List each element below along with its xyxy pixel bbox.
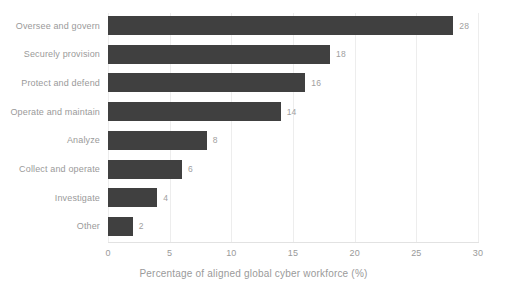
- bar: [108, 217, 133, 236]
- x-tick-label: 30: [473, 248, 483, 258]
- category-label-row: Operate and maintain: [0, 102, 100, 121]
- bar-row: 14: [108, 102, 478, 121]
- category-label: Securely provision: [24, 49, 100, 59]
- category-label: Analyze: [67, 135, 100, 145]
- category-label: Other: [77, 221, 100, 231]
- category-label-row: Oversee and govern: [0, 16, 100, 35]
- category-label: Operate and maintain: [10, 107, 100, 117]
- bar-value-label: 6: [188, 164, 193, 174]
- category-label: Protect and defend: [21, 78, 100, 88]
- x-tick-label: 10: [226, 248, 236, 258]
- bar-row: 4: [108, 188, 478, 207]
- x-tick-label: 15: [288, 248, 298, 258]
- gridline: [478, 13, 479, 242]
- bar: [108, 188, 157, 207]
- bar-value-label: 14: [287, 107, 297, 117]
- x-tick-label: 20: [350, 248, 360, 258]
- category-label-row: Protect and defend: [0, 73, 100, 92]
- bar-value-label: 8: [213, 135, 218, 145]
- bar: [108, 45, 330, 64]
- category-label: Collect and operate: [19, 164, 100, 174]
- bar-value-label: 16: [311, 78, 321, 88]
- category-label: Investigate: [55, 193, 100, 203]
- bar: [108, 160, 182, 179]
- bar-value-label: 28: [459, 21, 469, 31]
- bar-chart: 281816148642 051015202530 Oversee and go…: [0, 0, 507, 282]
- bar-value-label: 2: [139, 221, 144, 231]
- bar-row: 18: [108, 45, 478, 64]
- category-label: Oversee and govern: [16, 21, 100, 31]
- category-label-row: Investigate: [0, 188, 100, 207]
- bar-row: 28: [108, 16, 478, 35]
- x-axis-title: Percentage of aligned global cyber workf…: [0, 268, 507, 279]
- bar-value-label: 18: [336, 49, 346, 59]
- x-tick-label: 25: [411, 248, 421, 258]
- bar-row: 6: [108, 160, 478, 179]
- bar-row: 8: [108, 131, 478, 150]
- x-axis-line: [108, 242, 479, 243]
- x-tick-label: 5: [167, 248, 172, 258]
- bar-row: 2: [108, 217, 478, 236]
- x-tick-label: 0: [105, 248, 110, 258]
- category-label-row: Securely provision: [0, 45, 100, 64]
- bar: [108, 16, 453, 35]
- category-label-row: Collect and operate: [0, 160, 100, 179]
- category-label-row: Analyze: [0, 131, 100, 150]
- bar: [108, 102, 281, 121]
- bar-value-label: 4: [163, 193, 168, 203]
- bar-row: 16: [108, 73, 478, 92]
- category-label-row: Other: [0, 217, 100, 236]
- plot-area: 281816148642: [108, 13, 478, 242]
- bar: [108, 131, 207, 150]
- bar: [108, 73, 305, 92]
